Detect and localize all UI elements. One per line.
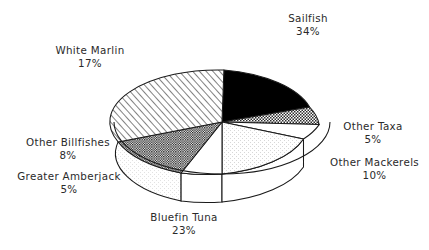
slice-label-name: White Marlin: [38, 44, 142, 57]
slice-label-percent: 8%: [10, 149, 126, 162]
slice-label-bluefin-tuna: Bluefin Tuna 23%: [131, 211, 237, 236]
slice-label-name: Other Taxa: [333, 120, 413, 133]
pie-chart-figure: Sailfish 34% Other Taxa 5% Other Mackere…: [0, 0, 429, 250]
side-wall-greater-amberjack: [181, 173, 222, 203]
slice-label-percent: 5%: [333, 133, 413, 146]
slice-label-white-marlin: White Marlin 17%: [38, 44, 142, 69]
slice-label-percent: 34%: [259, 25, 357, 38]
slice-label-name: Bluefin Tuna: [131, 211, 237, 224]
slice-label-percent: 17%: [38, 57, 142, 70]
slice-label-sailfish: Sailfish 34%: [259, 12, 357, 37]
slice-label-greater-amberjack: Greater Amberjack 5%: [6, 170, 132, 195]
slice-label-percent: 10%: [322, 169, 427, 182]
slice-label-percent: 23%: [131, 224, 237, 237]
slice-label-name: Sailfish: [259, 12, 357, 25]
slice-label-percent: 5%: [6, 183, 132, 196]
slice-label-name: Other Mackerels: [322, 156, 427, 169]
slice-label-name: Other Billfishes: [10, 136, 126, 149]
slice-label-other-mackerels: Other Mackerels 10%: [322, 156, 427, 181]
slice-label-other-billfishes: Other Billfishes 8%: [10, 136, 126, 161]
slice-label-other-taxa: Other Taxa 5%: [333, 120, 413, 145]
slice-label-name: Greater Amberjack: [6, 170, 132, 183]
